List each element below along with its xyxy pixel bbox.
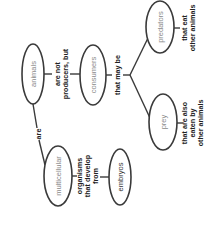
link-animals-consumers-line2: producers, but (61, 48, 70, 99)
connector-animals-are-b (39, 140, 45, 165)
connector-branch-predators (130, 38, 148, 75)
node-prey-label: prey (159, 114, 168, 129)
node-animals-label: animals (29, 61, 38, 87)
node-embryos-label: embryos (116, 162, 125, 191)
multicellular-desc-line3: from (91, 168, 100, 184)
connector-animals-are-a (33, 104, 37, 128)
link-animals-consumers: are not producers, but (53, 48, 70, 99)
node-multicellular-label: multicellular (54, 156, 63, 196)
predators-desc-line2: other animals (188, 5, 197, 52)
connector-branch-prey (130, 75, 150, 118)
concept-map: animals consumers predators prey multice… (0, 0, 210, 249)
node-predators-label: predators (156, 11, 165, 43)
link-predators-desc: that eat other animals (180, 5, 197, 52)
link-that-may-be: that may be (113, 55, 122, 95)
link-multicellular-embryos: organisms that develop from (75, 154, 100, 197)
node-consumers-label: consumers (89, 56, 98, 93)
link-are: are (34, 129, 43, 140)
prey-desc-line3: other animals (196, 100, 205, 147)
link-prey-desc: that are also eaten by other animals (180, 100, 205, 147)
